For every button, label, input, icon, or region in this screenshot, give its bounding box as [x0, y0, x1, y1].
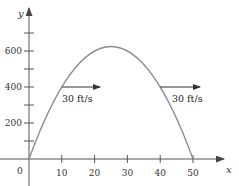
trajectory-chart: x y 0 10 20 30 40 50 200 400 600 30 ft/s — [0, 0, 239, 186]
y-tick-label: 400 — [5, 82, 22, 92]
y-tick-labels: 200 400 600 — [5, 46, 22, 128]
y-tick-label: 200 — [5, 118, 22, 128]
velocity-arrow-right: 30 ft/s — [160, 87, 202, 104]
y-axis-label: y — [17, 8, 24, 19]
x-axis-label: x — [226, 164, 232, 175]
x-tick-label: 10 — [56, 168, 68, 178]
x-tick-labels: 10 20 30 40 50 — [56, 168, 199, 178]
velocity-label-left: 30 ft/s — [62, 93, 93, 104]
x-tick-label: 40 — [154, 168, 166, 178]
y-tick-label: 600 — [5, 46, 22, 56]
velocity-arrow-left: 30 ft/s — [62, 87, 100, 104]
velocity-label-right: 30 ft/s — [172, 93, 203, 104]
x-tick-label: 20 — [89, 168, 101, 178]
trajectory-curve-smooth — [29, 47, 193, 160]
origin-label: 0 — [17, 166, 23, 176]
x-tick-label: 50 — [187, 168, 199, 178]
x-tick-label: 30 — [122, 168, 134, 178]
